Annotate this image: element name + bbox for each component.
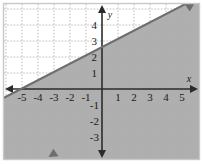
x-tick-5: 5 [179,91,185,103]
x-tick--5: -5 [17,91,27,103]
coordinate-plane-svg: -5 -4 -3 -2 -1 1 2 3 4 5 1 2 3 4 -1 -2 -… [0,0,203,164]
x-tick--3: -3 [49,91,59,103]
plot-frame: -5 -4 -3 -2 -1 1 2 3 4 5 1 2 3 4 -1 -2 -… [0,0,203,164]
y-tick--1: -1 [90,99,99,111]
x-tick-1: 1 [115,91,121,103]
y-tick-1: 1 [92,67,98,79]
y-tick--2: -2 [90,115,99,127]
x-axis-label: x [186,73,192,84]
x-tick-2: 2 [131,91,137,103]
x-tick-3: 3 [147,91,153,103]
graph-figure: -5 -4 -3 -2 -1 1 2 3 4 5 1 2 3 4 -1 -2 -… [0,0,203,164]
y-axis-label: y [107,9,113,20]
x-tick--4: -4 [33,91,43,103]
y-tick-4: 4 [92,19,98,31]
x-tick-4: 4 [163,91,169,103]
x-tick--2: -2 [65,91,74,103]
y-tick--3: -3 [90,131,100,143]
y-tick-2: 2 [92,51,98,63]
y-tick-3: 3 [92,35,98,47]
